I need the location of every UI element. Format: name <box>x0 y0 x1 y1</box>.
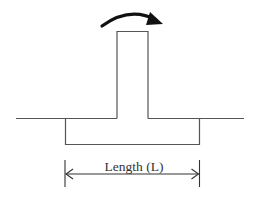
footing-diagram: Length (L) <box>0 0 256 198</box>
footing <box>66 119 200 145</box>
column <box>117 32 148 119</box>
moment-arrow-icon <box>102 12 163 26</box>
dimension-label: Length (L) <box>105 159 164 174</box>
